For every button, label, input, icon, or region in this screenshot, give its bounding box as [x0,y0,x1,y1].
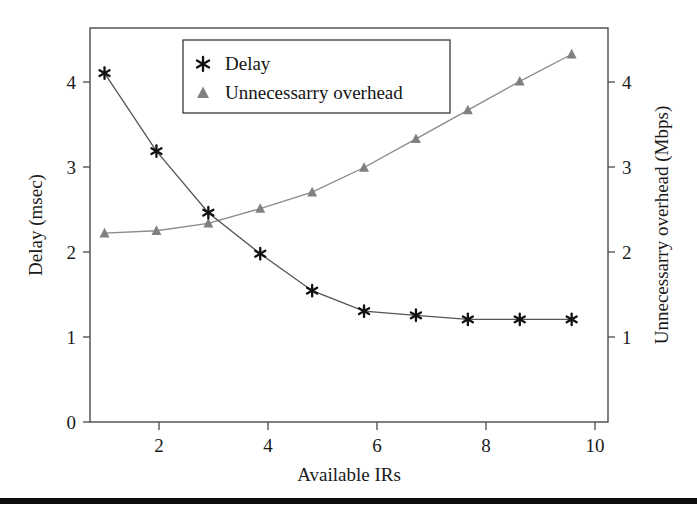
bottom-rule-divider [0,498,697,504]
y-right-tick-4: 4 [622,72,632,93]
y-right-axis-title: Unnecessarry overhead (Mbps) [651,106,673,344]
x-tick-10: 10 [586,435,605,456]
y-left-tick-1: 1 [67,327,77,348]
y-right-tick-3: 3 [622,157,632,178]
y-left-tick-4: 4 [67,72,77,93]
chart-figure: 0 1 2 3 4 1 2 3 4 2 4 6 8 10 Available I… [0,0,697,511]
y-left-tick-3: 3 [67,157,77,178]
y-right-tick-2: 2 [622,242,632,263]
x-tick-8: 8 [481,435,491,456]
x-axis-title: Available IRs [297,464,401,485]
line-chart-svg: 0 1 2 3 4 1 2 3 4 2 4 6 8 10 Available I… [0,0,697,511]
y-right-tick-1: 1 [622,327,632,348]
x-tick-2: 2 [154,435,164,456]
legend-label-overhead: Unnecessarry overhead [225,82,403,103]
y-left-tick-2: 2 [67,242,77,263]
y-left-axis-title: Delay (msec) [25,174,47,276]
y-right-axis-ticks [608,82,615,337]
x-axis-ticks [159,422,595,430]
chart-legend: Delay Unnecessarry overhead [183,40,450,113]
x-tick-6: 6 [372,435,382,456]
y-left-axis-ticks [83,82,90,422]
y-left-tick-0: 0 [67,412,77,433]
x-tick-4: 4 [263,435,273,456]
legend-label-delay: Delay [225,53,271,74]
